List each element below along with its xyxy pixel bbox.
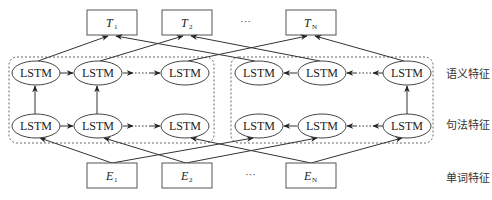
svg-text:E: E [105,169,114,183]
layer-label-semantic: 语义特征 [446,67,490,81]
output-node-t2: T 2 [162,10,212,35]
svg-text:N: N [312,176,317,184]
svg-text:LSTM: LSTM [391,119,423,133]
bilstm-diagram: T 1 T 2 ··· T N [0,0,492,200]
output-connections [38,36,404,61]
layer-label-word: 单词特征 [446,171,490,185]
svg-text:LSTM: LSTM [243,66,275,80]
svg-text:LSTM: LSTM [391,66,423,80]
lstm-node-forward-lower-1: LSTM [12,114,60,138]
input-ellipsis: ··· [245,168,256,180]
svg-text:N: N [312,23,317,31]
svg-text:2: 2 [189,23,193,31]
lstm-node-backward-lower-1: LSTM [235,114,283,138]
lstm-node-forward-lower-2: LSTM [74,114,122,138]
svg-text:LSTM: LSTM [243,119,275,133]
input-node-e2: E 2 [162,163,212,188]
layer-label-syntactic: 句法特征 [446,118,490,132]
lstm-node-forward-upper-3: LSTM [161,61,209,85]
svg-text:LSTM: LSTM [169,119,201,133]
lstm-node-backward-lower-3: LSTM [383,114,431,138]
svg-text:E: E [180,169,189,183]
input-connections [40,138,402,163]
lstm-node-backward-upper-1: LSTM [235,61,283,85]
output-node-tn: T N [286,10,336,35]
lstm-node-backward-upper-2: LSTM [298,61,346,85]
svg-text:1: 1 [114,176,118,184]
svg-text:1: 1 [114,23,118,31]
svg-text:LSTM: LSTM [306,66,338,80]
vertical-connections [35,86,407,114]
lstm-node-forward-upper-2: LSTM [74,61,122,85]
svg-text:LSTM: LSTM [306,119,338,133]
lstm-node-backward-upper-3: LSTM [383,61,431,85]
lstm-node-backward-lower-2: LSTM [298,114,346,138]
svg-text:E: E [303,169,312,183]
input-node-en: E N [286,163,336,188]
svg-text:LSTM: LSTM [169,66,201,80]
lstm-node-forward-lower-3: LSTM [161,114,209,138]
svg-text:LSTM: LSTM [82,66,114,80]
output-ellipsis: ··· [240,15,251,27]
svg-text:LSTM: LSTM [20,66,52,80]
svg-text:LSTM: LSTM [82,119,114,133]
svg-text:LSTM: LSTM [20,119,52,133]
svg-text:2: 2 [189,176,193,184]
lstm-node-forward-upper-1: LSTM [12,61,60,85]
input-node-e1: E 1 [87,163,137,188]
output-node-t1: T 1 [87,10,137,35]
